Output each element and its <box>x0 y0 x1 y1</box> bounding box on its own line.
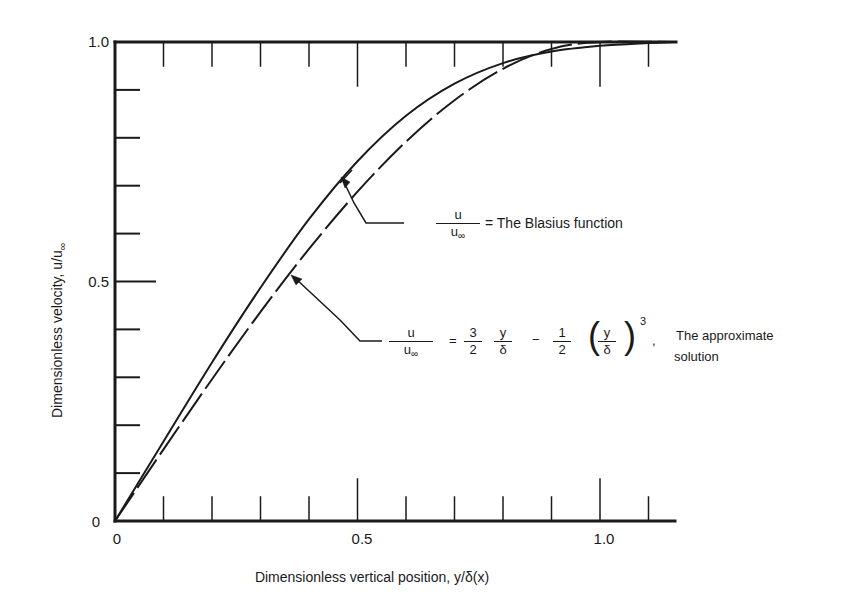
y-axis-label: Dimensionless velocity, u/u∞ <box>49 242 68 418</box>
blasius-fraction: u u∞ <box>436 208 480 243</box>
approx-label-line-1: The approximate <box>676 328 774 343</box>
x-tick-label-1.0: 1.0 <box>594 530 615 547</box>
axes <box>115 42 676 521</box>
x-axis-ticks <box>164 479 649 521</box>
blasius-curve <box>115 42 673 521</box>
eq-equals: = <box>449 333 457 348</box>
approx-lhs-fraction: u u∞ <box>389 326 433 361</box>
eq-close-paren: ) <box>624 318 636 354</box>
x-tick-label-0: 0 <box>113 530 121 547</box>
y-axis-ticks <box>115 90 155 473</box>
y-tick-label-0: 0 <box>92 513 100 530</box>
y-tick-label-1.0: 1.0 <box>88 33 109 50</box>
eq-minus: − <box>532 332 540 347</box>
eq-y-over-delta-1: y δ <box>494 326 512 357</box>
blasius-leader-arrow <box>340 170 404 223</box>
eq-three-halves: 3 2 <box>464 326 482 357</box>
x-tick-label-0.5: 0.5 <box>352 530 373 547</box>
eq-y-over-delta-2: y δ <box>598 326 616 357</box>
y-tick-label-0.5: 0.5 <box>88 273 109 290</box>
eq-one-half: 1 2 <box>553 326 571 357</box>
fraction-denominator: u∞ <box>447 225 469 243</box>
approx-label-line-2: solution <box>674 349 719 364</box>
fraction-numerator: u <box>450 208 465 222</box>
eq-exponent: 3 <box>640 315 646 327</box>
approximate-solution-curve <box>115 41 673 521</box>
chart-figure: 0 0.5 1.0 0 0.5 1.0 Dimensionless vertic… <box>0 0 851 606</box>
approx-leader-arrow <box>291 275 382 341</box>
eq-comma: , <box>652 333 656 348</box>
blasius-label: = The Blasius function <box>485 215 623 231</box>
x-axis-label: Dimensionless vertical position, y/δ(x) <box>255 569 489 585</box>
